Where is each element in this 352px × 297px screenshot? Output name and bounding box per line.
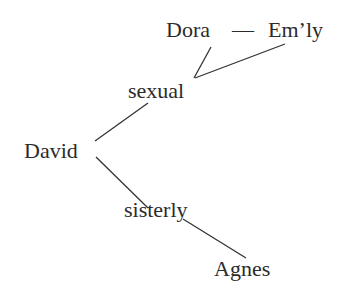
node-sexual: sexual — [128, 80, 184, 102]
edge-sisterly-agnes — [183, 219, 246, 258]
node-david: David — [24, 140, 78, 162]
node-sisterly: sisterly — [124, 199, 188, 221]
node-dash: — — [232, 19, 254, 41]
edge-emly-sexual — [195, 44, 285, 78]
node-emly: Em’ly — [268, 19, 323, 41]
node-dora: Dora — [166, 19, 210, 41]
node-agnes: Agnes — [214, 258, 270, 280]
edge-david-sexual — [95, 103, 148, 141]
